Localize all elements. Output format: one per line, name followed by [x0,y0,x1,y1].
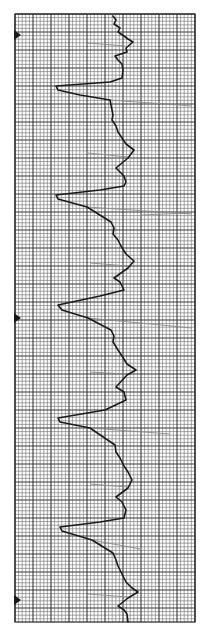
ecg-chart [0,0,201,640]
ecg-rhythm-strip [0,0,201,640]
